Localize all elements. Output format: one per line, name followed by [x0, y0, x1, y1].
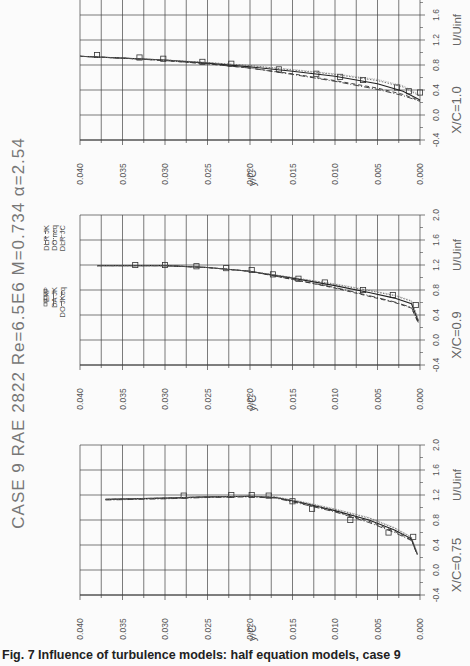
- svg-text:0.035: 0.035: [118, 388, 128, 410]
- x-axis-label: y/C: [246, 625, 258, 642]
- series-dlr-jc: [106, 496, 418, 553]
- figure-title: CASE 9 RAE 2822 Re=6.5E6 M=0.734 α=2.54: [9, 137, 28, 528]
- svg-text:0.015: 0.015: [288, 163, 298, 185]
- svg-text:DO JKeq: DO JKeq: [58, 287, 67, 317]
- svg-text:0.035: 0.035: [118, 163, 128, 185]
- panel-xc-0-75: 0.0400.0350.0300.0250.0200.0150.0100.005…: [75, 439, 464, 641]
- y-axis-label: U/Uinf: [451, 238, 463, 271]
- exp-markers: [133, 262, 419, 307]
- x-axis-label: y/C: [246, 170, 258, 187]
- u-uinf-tick-labels: -0.40.00.40.81.21.62.0: [431, 209, 441, 373]
- plot-grid: [80, 0, 425, 145]
- svg-text:0.0: 0.0: [431, 564, 441, 576]
- svg-text:0.025: 0.025: [203, 618, 213, 640]
- svg-text:2.0: 2.0: [431, 439, 441, 451]
- plot-grid: [80, 215, 425, 370]
- series-do-jkeq: [97, 266, 418, 323]
- panel-station-label: X/C=0.75: [449, 538, 464, 593]
- figure-page: CASE 9 RAE 2822 Re=6.5E6 M=0.734 α=2.54 …: [0, 0, 470, 666]
- svg-text:1.2: 1.2: [431, 489, 441, 501]
- svg-text:0.8: 0.8: [431, 59, 441, 71]
- svg-text:-0.4: -0.4: [431, 132, 441, 147]
- svg-text:0.4: 0.4: [431, 309, 441, 321]
- svg-text:0.8: 0.8: [431, 514, 441, 526]
- svg-text:DLR JC: DLR JC: [58, 224, 67, 251]
- svg-text:1.2: 1.2: [431, 34, 441, 46]
- svg-text:1.6: 1.6: [431, 234, 441, 246]
- svg-text:0.0: 0.0: [431, 109, 441, 121]
- panel-xc-1-0: 0.0400.0350.0300.0250.0200.0150.0100.005…: [75, 0, 464, 186]
- u-uinf-tick-labels: -0.40.00.40.81.21.62.0: [431, 439, 441, 603]
- svg-text:0.8: 0.8: [431, 284, 441, 296]
- series-dlr-jk: [97, 266, 418, 324]
- exp-markers: [181, 492, 416, 539]
- svg-text:0.040: 0.040: [75, 163, 85, 185]
- svg-text:0.4: 0.4: [431, 539, 441, 551]
- svg-text:0.040: 0.040: [75, 388, 85, 410]
- svg-text:0.030: 0.030: [160, 388, 170, 410]
- svg-text:0.025: 0.025: [203, 163, 213, 185]
- panel-station-label: X/C=0.9: [449, 311, 464, 358]
- svg-text:0.030: 0.030: [160, 163, 170, 185]
- svg-text:0.0: 0.0: [431, 334, 441, 346]
- figure-caption: Fig. 7 Influence of turbulence models: h…: [2, 648, 468, 666]
- svg-text:0.005: 0.005: [373, 163, 383, 185]
- svg-text:0.000: 0.000: [415, 388, 425, 410]
- svg-text:0.025: 0.025: [203, 388, 213, 410]
- svg-text:-0.4: -0.4: [431, 587, 441, 602]
- svg-text:1.6: 1.6: [431, 464, 441, 476]
- svg-text:0.015: 0.015: [288, 618, 298, 640]
- svg-text:0.010: 0.010: [330, 388, 340, 410]
- svg-text:0.005: 0.005: [373, 388, 383, 410]
- u-uinf-tick-labels: -0.40.00.40.81.21.6: [431, 9, 441, 148]
- y-axis-label: U/Uinf: [451, 13, 463, 46]
- svg-text:1.6: 1.6: [431, 9, 441, 21]
- svg-text:0.035: 0.035: [118, 618, 128, 640]
- svg-text:0.005: 0.005: [373, 618, 383, 640]
- svg-text:0.030: 0.030: [160, 618, 170, 640]
- svg-text:0.010: 0.010: [330, 163, 340, 185]
- series-dlr-jk: [106, 496, 418, 555]
- svg-text:0.010: 0.010: [330, 618, 340, 640]
- svg-text:-0.4: -0.4: [431, 357, 441, 372]
- svg-text:0.000: 0.000: [415, 618, 425, 640]
- svg-text:0.000: 0.000: [415, 163, 425, 185]
- x-axis-label: y/C: [246, 395, 258, 412]
- series-do-jkeq: [106, 497, 418, 555]
- series-da-jk: [106, 496, 418, 554]
- panel-xc-0-9: 0.0400.0350.0300.0250.0200.0150.0100.005…: [75, 209, 464, 411]
- svg-text:1.2: 1.2: [431, 259, 441, 271]
- legend: EXPDA JKDO JKeqDLR JKDO neqDLR JC: [42, 224, 67, 317]
- series-da-jk: [97, 266, 418, 322]
- svg-text:2.0: 2.0: [431, 209, 441, 221]
- svg-text:0.015: 0.015: [288, 388, 298, 410]
- panel-station-label: X/C=1.0: [449, 86, 464, 133]
- svg-text:0.040: 0.040: [75, 618, 85, 640]
- rotated-figure: CASE 9 RAE 2822 Re=6.5E6 M=0.734 α=2.54 …: [0, 0, 470, 666]
- plot-grid: [80, 445, 425, 600]
- svg-text:0.4: 0.4: [431, 84, 441, 96]
- y-axis-label: U/Uinf: [451, 468, 463, 501]
- figure-title-text: CASE 9 RAE 2822 Re=6.5E6 M=0.734 α=2.54: [9, 137, 28, 528]
